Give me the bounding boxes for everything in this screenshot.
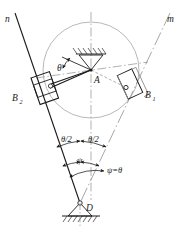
angle-arc-psi-right bbox=[81, 162, 99, 166]
label-pivot-d: D bbox=[85, 203, 93, 213]
label-angle-psi: ψ bbox=[77, 155, 83, 165]
label-slider-b1-subscript: 1 bbox=[153, 95, 156, 102]
label-line-n: n bbox=[5, 14, 10, 24]
angle-arc-psi-equals-theta bbox=[70, 170, 104, 177]
label-slider-b1: B 1 bbox=[145, 90, 156, 102]
pivot-a-hatching bbox=[73, 48, 106, 54]
slider-b2-inner bbox=[33, 79, 56, 98]
label-pivot-a: A bbox=[93, 75, 100, 85]
linkage-diagram-canvas: n m A D B 1 B 2 θ θ/2 θ/2 ψ ψ=θ bbox=[0, 0, 182, 232]
label-slider-b2-letter: B bbox=[12, 93, 18, 103]
label-line-m: m bbox=[167, 14, 174, 24]
angle-arc-theta bbox=[63, 58, 70, 68]
label-angle-half-theta-left: θ/2 bbox=[61, 134, 73, 144]
label-relation-psi-theta: ψ=θ bbox=[107, 165, 122, 175]
axis-line-m bbox=[80, 13, 170, 203]
angle-theta-ref-line bbox=[62, 57, 91, 70]
joint-b2-pin bbox=[48, 84, 52, 88]
label-slider-b1-letter: B bbox=[145, 90, 151, 100]
label-slider-b2: B 2 bbox=[12, 93, 23, 105]
linkage-diagram-svg: n m A D B 1 B 2 θ θ/2 θ/2 ψ ψ=θ bbox=[0, 0, 182, 232]
label-angle-theta: θ bbox=[57, 63, 62, 73]
axis-line-n bbox=[15, 13, 80, 203]
label-slider-b2-subscript: 2 bbox=[20, 98, 23, 105]
label-angle-half-theta-right: θ/2 bbox=[88, 134, 100, 144]
